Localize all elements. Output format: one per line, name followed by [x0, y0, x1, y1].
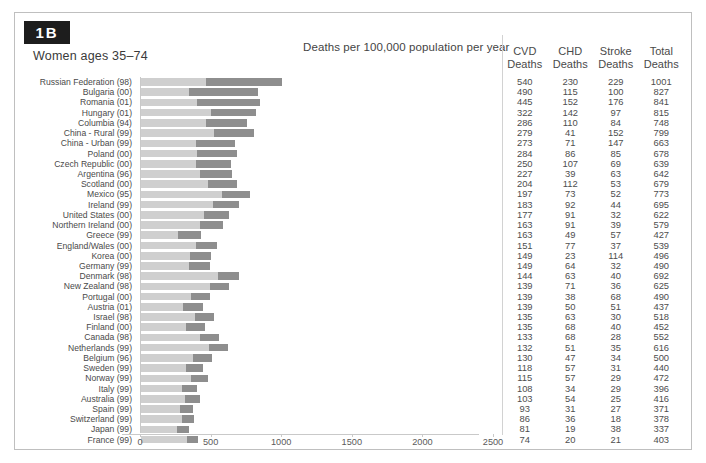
- data-table: CVDDeathsCHDDeathsStrokeDeathsTotalDeath…: [502, 35, 684, 435]
- category-label: Portugal (00): [33, 292, 136, 302]
- x-tick-label: 1500: [342, 437, 362, 447]
- table-cell-chd: 20: [548, 435, 594, 445]
- category-label: Mexico (95): [33, 189, 136, 199]
- bar-segment-non-cvd: [141, 334, 200, 342]
- figure-subtitle: Women ages 35–74: [33, 49, 148, 63]
- bar-segment-cvd: [204, 211, 229, 219]
- category-label: Ireland (99): [33, 200, 136, 210]
- x-tick-label: 1000: [271, 437, 291, 447]
- bar-segment-non-cvd: [141, 180, 208, 188]
- category-label: Australia (99): [33, 394, 136, 404]
- bar-segment-cvd: [190, 252, 211, 260]
- bar-segment-non-cvd: [141, 415, 182, 423]
- bar-segment-non-cvd: [141, 88, 189, 96]
- bar-row: [140, 251, 493, 261]
- category-label: United States (00): [33, 210, 136, 220]
- x-tick-mark: [422, 434, 423, 437]
- category-label: Korea (00): [33, 251, 136, 261]
- bar-segment-non-cvd: [141, 293, 191, 301]
- bar-row: [140, 261, 493, 271]
- table-cell-cvd: 163: [502, 230, 548, 240]
- bar-segment-cvd: [218, 272, 238, 280]
- figure-badge: 1B: [24, 21, 70, 44]
- bar-segment-non-cvd: [141, 129, 214, 137]
- bar-segment-cvd: [211, 109, 256, 117]
- bar-segment-cvd: [186, 323, 205, 331]
- table-cell-chd: 71: [548, 138, 594, 148]
- category-label: Italy (99): [33, 384, 136, 394]
- bar-segment-cvd: [196, 160, 231, 168]
- bar-row: [140, 159, 493, 169]
- bar-row: [140, 435, 493, 445]
- chart-plot-area: Russian Federation (98)Bulgaria (00)Roma…: [33, 77, 493, 437]
- table-column-header-line: Total: [639, 45, 685, 58]
- bar-row: [140, 322, 493, 332]
- bar-row: [140, 353, 493, 363]
- table-cell-stroke: 57: [593, 230, 639, 240]
- x-tick-mark: [281, 434, 282, 437]
- table-column-header-line: Deaths: [639, 58, 685, 71]
- x-tick-label: 2500: [483, 437, 503, 447]
- bar-row: [140, 394, 493, 404]
- bar-segment-non-cvd: [141, 221, 200, 229]
- bar-row: [140, 169, 493, 179]
- bar-segment-cvd: [180, 405, 193, 413]
- bar-segment-cvd: [189, 262, 210, 270]
- category-label: New Zealand (98): [33, 281, 136, 291]
- category-label: Russian Federation (98): [33, 77, 136, 87]
- category-label: France (99): [33, 435, 136, 445]
- bar-segment-cvd: [200, 334, 219, 342]
- category-label: Netherlands (99): [33, 343, 136, 353]
- bar-row: [140, 189, 493, 199]
- bar-row: [140, 363, 493, 373]
- bar-segment-non-cvd: [141, 252, 190, 260]
- bar-segment-cvd: [191, 293, 211, 301]
- bar-segment-cvd: [214, 129, 253, 137]
- x-tick-mark: [352, 434, 353, 437]
- bar-segment-non-cvd: [141, 272, 218, 280]
- bar-segment-non-cvd: [141, 140, 196, 148]
- bar-segment-cvd: [195, 313, 214, 321]
- category-label: Belgium (96): [33, 353, 136, 363]
- bar-row: [140, 87, 493, 97]
- category-label: Czech Republic (00): [33, 159, 136, 169]
- bar-row: [140, 128, 493, 138]
- category-axis-labels: Russian Federation (98)Bulgaria (00)Roma…: [33, 77, 136, 445]
- category-label: Israel (98): [33, 312, 136, 322]
- table-cell-chd: 49: [548, 230, 594, 240]
- bar-row: [140, 281, 493, 291]
- bar-row: [140, 332, 493, 342]
- bar-segment-non-cvd: [141, 262, 189, 270]
- table-row: 1634957427: [502, 230, 684, 240]
- bar-row: [140, 179, 493, 189]
- bar-segment-cvd: [185, 395, 200, 403]
- x-tick-mark: [140, 434, 141, 437]
- bar-segment-cvd: [208, 180, 237, 188]
- x-axis-baseline: [122, 434, 479, 435]
- bar-row: [140, 292, 493, 302]
- table-column-header: CVDDeaths: [502, 45, 548, 70]
- table-cell-cvd: 74: [502, 435, 548, 445]
- category-label: Sweden (99): [33, 363, 136, 373]
- bar-segment-non-cvd: [141, 201, 213, 209]
- category-label: Greece (99): [33, 230, 136, 240]
- bar-segment-non-cvd: [141, 385, 182, 393]
- x-tick-label: 0: [137, 437, 142, 447]
- bar-segment-cvd: [206, 78, 282, 86]
- bar-series-area: [140, 77, 493, 435]
- category-label: Hungary (01): [33, 108, 136, 118]
- bar-row: [140, 97, 493, 107]
- table-body: 5402302291001490115100827445152176841322…: [502, 77, 684, 445]
- table-header-row: CVDDeathsCHDDeathsStrokeDeathsTotalDeath…: [502, 45, 684, 70]
- x-tick-mark: [211, 434, 212, 437]
- bar-row: [140, 373, 493, 383]
- category-label: Argentina (96): [33, 169, 136, 179]
- category-label: Finland (00): [33, 322, 136, 332]
- table-column-header-line: Deaths: [593, 58, 639, 71]
- category-label: Romania (01): [33, 97, 136, 107]
- bar-segment-non-cvd: [141, 405, 180, 413]
- bar-segment-cvd: [191, 375, 207, 383]
- table-column-header: StrokeDeaths: [593, 45, 639, 70]
- table-cell-stroke: 21: [593, 435, 639, 445]
- table-cell-stroke: 147: [593, 138, 639, 148]
